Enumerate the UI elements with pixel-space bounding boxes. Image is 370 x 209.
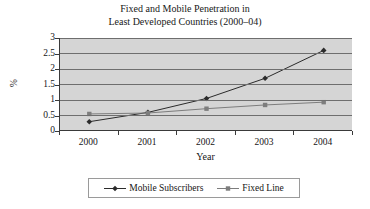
data-point-marker <box>204 106 208 110</box>
y-axis-tick-labels: 00.511.522.53 <box>22 38 55 131</box>
y-axis-tick-mark <box>55 54 59 55</box>
legend-item[interactable]: Mobile Subscribers <box>104 183 203 193</box>
x-axis-tick-mark <box>176 131 177 135</box>
x-axis-tick-label: 2004 <box>303 137 343 148</box>
series-line <box>89 50 323 121</box>
x-axis-tick-mark <box>352 131 353 135</box>
x-axis-tick-mark <box>59 131 60 135</box>
y-axis-tick-mark <box>55 85 59 86</box>
y-axis-tick-label: 1 <box>22 95 55 105</box>
x-axis-tick-mark <box>293 131 294 135</box>
chart-legend: Mobile SubscribersFixed Line <box>88 178 300 198</box>
gridline <box>60 69 352 70</box>
y-axis-tick-label: 3 <box>22 33 55 43</box>
y-axis-tick-mark <box>55 69 59 70</box>
y-axis-tick-label: 0 <box>22 126 55 136</box>
y-axis-tick-mark <box>55 100 59 101</box>
legend-diamond-marker-icon <box>104 184 126 193</box>
y-axis-tick-label: 2 <box>22 64 55 74</box>
chart-title: Fixed and Mobile Penetration in Least De… <box>0 3 370 28</box>
gridline <box>60 53 352 54</box>
gridline <box>60 100 352 101</box>
x-axis-tick-mark <box>235 131 236 135</box>
y-axis-tick-label: 2.5 <box>22 49 55 59</box>
y-axis-tick-mark <box>55 38 59 39</box>
data-point-marker <box>322 100 326 104</box>
chart-title-line-2: Least Developed Countries (2000–04) <box>0 16 370 29</box>
plot-area <box>59 38 352 131</box>
y-axis-title: % <box>9 73 19 93</box>
x-axis-tick-label: 2001 <box>127 137 167 148</box>
x-axis-tick-label: 2003 <box>244 137 284 148</box>
y-axis-tick-label: 0.5 <box>22 111 55 121</box>
legend-item[interactable]: Fixed Line <box>217 183 283 193</box>
x-axis-title: Year <box>59 151 352 162</box>
gridline <box>60 38 352 39</box>
y-axis-tick-label: 1.5 <box>22 80 55 90</box>
x-axis-tick-mark <box>118 131 119 135</box>
x-axis-tick-label: 2000 <box>68 137 108 148</box>
legend-square-marker-icon <box>217 184 239 193</box>
legend-label: Mobile Subscribers <box>129 183 203 193</box>
y-axis-tick-mark <box>55 116 59 117</box>
gridline <box>60 84 352 85</box>
chart-title-line-1: Fixed and Mobile Penetration in <box>0 3 370 16</box>
gridline <box>60 115 352 116</box>
data-point-marker <box>263 103 267 107</box>
data-point-marker <box>262 76 268 82</box>
x-axis-tick-label: 2002 <box>186 137 226 148</box>
legend-label: Fixed Line <box>242 183 283 193</box>
data-point-marker <box>87 119 93 125</box>
